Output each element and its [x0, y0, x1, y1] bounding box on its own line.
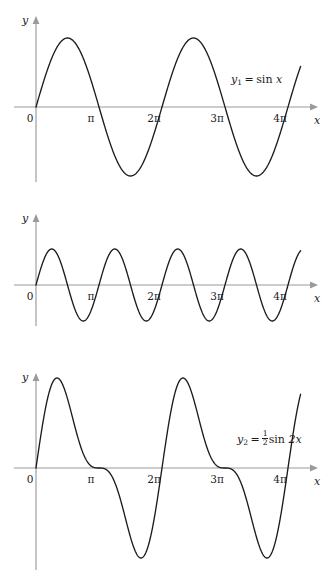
x-tick-2pi: 2π	[147, 473, 161, 485]
x-tick-2pi: 2π	[147, 290, 161, 302]
x-tick-pi: π	[88, 290, 95, 302]
y-axis-arrowhead	[33, 373, 40, 381]
x-tick-3pi: 3π	[210, 290, 224, 302]
x-axis-label: x	[314, 114, 321, 127]
y-axis-arrowhead	[33, 214, 40, 222]
y-axis-label: y	[21, 14, 29, 27]
axes-sum	[14, 373, 318, 570]
equation-lhs-subscript: 1	[237, 78, 242, 87]
origin-label: 0	[27, 473, 34, 485]
origin-label: 0	[27, 112, 34, 124]
x-tick-4pi: 4π	[273, 473, 287, 485]
chart-svg-y1: y x 0 π 2π 3π 4π	[0, 0, 329, 190]
x-tick-4pi: 4π	[273, 112, 287, 124]
x-axis-arrowhead	[310, 104, 318, 111]
chart-panel-y1: y x 0 π 2π 3π 4π y1=sin x	[0, 0, 329, 190]
x-tick-pi: π	[88, 473, 95, 485]
equation-label-y1: y1=sin x	[231, 74, 282, 87]
x-axis-label: x	[314, 292, 321, 305]
equation-argument: x	[276, 73, 282, 86]
x-tick-3pi: 3π	[210, 112, 224, 124]
chart-svg-sum: y x 0 π 2π 3π 4π	[0, 330, 329, 578]
origin-label: 0	[27, 290, 34, 302]
x-tick-2pi: 2π	[147, 112, 161, 124]
equation-equals: =	[245, 73, 254, 86]
x-tick-pi: π	[88, 112, 95, 124]
y-axis-arrowhead	[33, 16, 40, 24]
y-axis-label: y	[21, 212, 29, 225]
y-axis-label: y	[21, 371, 29, 384]
x-axis-arrowhead	[310, 465, 318, 472]
chart-svg-y2: y x 0 π 2π 3π 4π	[0, 190, 329, 330]
chart-panel-y2: y x 0 π 2π 3π 4π y2=12sin 2x	[0, 190, 329, 330]
equation-function: sin	[256, 73, 272, 86]
x-tick-3pi: 3π	[210, 473, 224, 485]
x-axis-arrowhead	[310, 282, 318, 289]
x-axis-label: x	[314, 475, 321, 488]
x-tick-4pi: 4π	[273, 290, 287, 302]
sine-superposition-figure: y x 0 π 2π 3π 4π y1=sin x y x 0 π 2π	[0, 0, 329, 578]
chart-panel-sum: y x 0 π 2π 3π 4π y=y1+y2	[0, 330, 329, 578]
